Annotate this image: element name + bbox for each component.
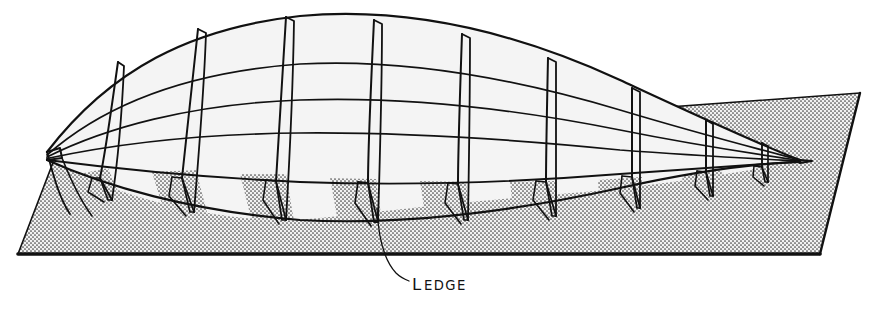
ledge-label-lead: L [412, 275, 423, 294]
ledge-label-rest: EDGE [424, 278, 467, 293]
hull-drawing-figure: L EDGE [0, 0, 874, 310]
hull-drawing-svg: L EDGE [0, 0, 874, 310]
